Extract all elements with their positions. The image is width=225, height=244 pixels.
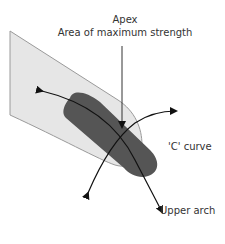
apex-subtitle: Area of maximum strength <box>55 27 195 39</box>
apex-title: Apex <box>60 14 190 26</box>
upper-arch-label: Upper arch <box>160 205 215 217</box>
c-curve-label: 'C' curve <box>168 141 212 153</box>
